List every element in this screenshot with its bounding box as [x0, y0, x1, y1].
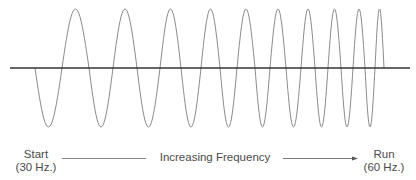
run-label: Run (60 Hz.) — [360, 148, 408, 174]
start-frequency: (30 Hz.) — [12, 161, 60, 174]
start-label: Start (30 Hz.) — [12, 148, 60, 174]
arrow-head-icon — [352, 157, 358, 161]
increasing-frequency-label: Increasing Frequency — [150, 151, 280, 164]
run-frequency: (60 Hz.) — [360, 161, 408, 174]
run-title: Run — [360, 148, 408, 161]
start-title: Start — [12, 148, 60, 161]
